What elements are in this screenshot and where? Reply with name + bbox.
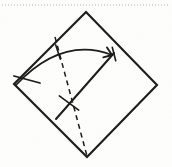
fold-diagram-svg <box>0 0 172 167</box>
figure-canvas: Origami Fold Diagram <box>0 0 172 167</box>
